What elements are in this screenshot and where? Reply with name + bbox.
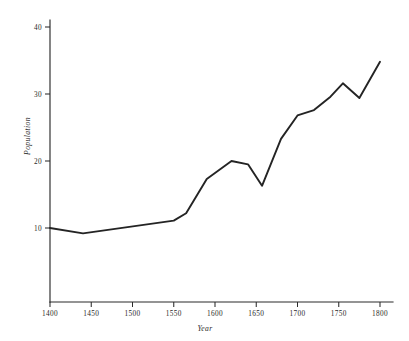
x-axis-tick-label: 1450 <box>83 309 99 318</box>
x-axis-tick-label: 1650 <box>248 309 264 318</box>
population-line-chart: 10203040 1400145015001550160016501700175… <box>0 0 409 341</box>
x-axis-ticks <box>50 302 380 307</box>
x-axis-tick-labels: 140014501500155016001650170017501800 <box>42 309 388 318</box>
x-axis-tick-label: 1600 <box>207 309 223 318</box>
chart-canvas: 10203040 1400145015001550160016501700175… <box>0 0 409 341</box>
x-axis-group: 140014501500155016001650170017501800 <box>42 302 393 318</box>
x-axis-title: Year <box>197 324 212 333</box>
x-axis-tick-label: 1400 <box>42 309 58 318</box>
y-axis-tick-label: 40 <box>34 23 42 32</box>
x-axis-tick-label: 1800 <box>372 309 388 318</box>
series-group <box>50 62 380 234</box>
x-axis-tick-label: 1750 <box>331 309 347 318</box>
y-axis-tick-label: 10 <box>34 224 42 233</box>
y-axis-ticks <box>45 27 50 228</box>
y-axis-tick-label: 20 <box>34 157 42 166</box>
y-axis-group: 10203040 <box>34 20 50 302</box>
y-axis-tick-labels: 10203040 <box>34 23 42 233</box>
population-series-line <box>50 62 380 234</box>
x-axis-tick-label: 1500 <box>125 309 141 318</box>
x-axis-tick-label: 1550 <box>166 309 182 318</box>
y-axis-tick-label: 30 <box>34 90 42 99</box>
x-axis-tick-label: 1700 <box>290 309 306 318</box>
y-axis-title: Population <box>23 117 32 156</box>
